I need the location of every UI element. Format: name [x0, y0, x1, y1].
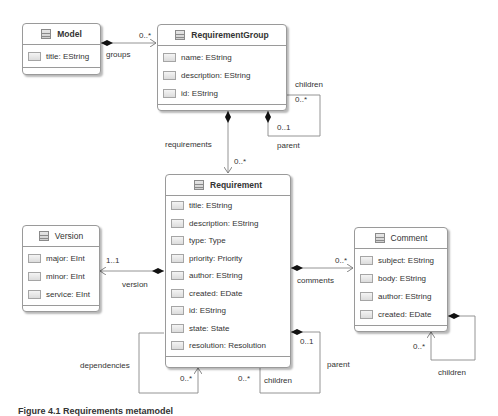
eattribute-icon	[360, 256, 373, 265]
multiplicity-req-parent: 0..1	[300, 337, 313, 346]
multiplicity-group-children: 0..*	[295, 95, 307, 104]
class-name: Comment	[391, 233, 428, 243]
eclass-icon	[375, 233, 385, 243]
class-requirement[interactable]: Requirement title: EString description: …	[165, 174, 291, 368]
attribute[interactable]: state: State	[166, 320, 290, 338]
eclass-icon	[175, 30, 185, 40]
multiplicity-group-parent: 0..1	[277, 123, 290, 132]
eclass-icon	[41, 29, 51, 39]
eattribute-icon	[171, 324, 184, 333]
attribute[interactable]: title: EString	[23, 47, 100, 65]
attribute[interactable]: resolution: Resolution	[166, 337, 290, 355]
class-requirement-group[interactable]: RequirementGroup name: EString descripti…	[157, 24, 287, 111]
attribute[interactable]: priority: Priority	[166, 250, 290, 268]
eattribute-icon	[171, 271, 184, 280]
role-label-requirements: requirements	[165, 140, 212, 149]
eattribute-icon	[360, 310, 373, 319]
role-label-group-parent: parent	[277, 141, 300, 150]
role-label-version: version	[122, 280, 148, 289]
attribute[interactable]: title: EString	[166, 197, 290, 215]
eattribute-icon	[171, 341, 184, 350]
eattribute-icon	[28, 254, 41, 263]
eclass-icon	[39, 231, 49, 241]
eattribute-icon	[171, 289, 184, 298]
class-comment[interactable]: Comment subject: EString body: EString a…	[354, 227, 448, 332]
multiplicity-groups: 0..*	[139, 31, 151, 40]
attribute[interactable]: major: EInt	[23, 249, 99, 267]
role-label-groups: groups	[106, 50, 130, 59]
role-label-req-children: children	[264, 376, 292, 385]
attribute[interactable]: author: EString	[166, 267, 290, 285]
multiplicity-comment-children: 0..*	[413, 342, 425, 351]
attribute[interactable]: created: EDate	[355, 305, 447, 323]
attribute[interactable]: author: EString	[355, 287, 447, 305]
eattribute-icon	[171, 236, 184, 245]
class-header: Model	[23, 24, 100, 45]
class-version[interactable]: Version major: EInt minor: EInt service:…	[22, 225, 100, 312]
class-model[interactable]: Model title: EString	[22, 23, 101, 75]
role-label-dependencies: dependencies	[80, 361, 130, 370]
role-label-req-parent: parent	[327, 360, 350, 369]
attribute[interactable]: subject: EString	[355, 251, 447, 269]
eattribute-icon	[28, 272, 41, 281]
attribute[interactable]: type: Type	[166, 232, 290, 250]
class-name: Model	[57, 29, 82, 39]
multiplicity-req-children: 0..*	[238, 374, 250, 383]
class-header: RequirementGroup	[158, 25, 286, 46]
eattribute-icon	[360, 292, 373, 301]
class-name: RequirementGroup	[191, 30, 268, 40]
attribute[interactable]: created: EDate	[166, 285, 290, 303]
eattribute-icon	[360, 274, 373, 283]
eattribute-icon	[171, 219, 184, 228]
class-name: Requirement	[210, 180, 262, 190]
multiplicity-requirements: 0..*	[234, 157, 246, 166]
attribute[interactable]: description: EString	[158, 66, 286, 84]
eattribute-icon	[163, 71, 176, 80]
role-label-group-children: children	[295, 80, 323, 89]
attribute[interactable]: body: EString	[355, 269, 447, 287]
class-header: Comment	[355, 228, 447, 249]
multiplicity-version: 1..1	[106, 256, 119, 265]
attribute[interactable]: minor: EInt	[23, 267, 99, 285]
eclass-icon	[194, 180, 204, 190]
attribute[interactable]: id: EString	[158, 84, 286, 102]
class-header: Version	[23, 226, 99, 247]
eattribute-icon	[163, 53, 176, 62]
attribute[interactable]: description: EString	[166, 215, 290, 233]
eattribute-icon	[163, 89, 176, 98]
attribute[interactable]: name: EString	[158, 48, 286, 66]
eattribute-icon	[171, 201, 184, 210]
eattribute-icon	[28, 52, 41, 61]
class-name: Version	[55, 231, 83, 241]
class-header: Requirement	[166, 175, 290, 196]
eattribute-icon	[171, 306, 184, 315]
attribute[interactable]: id: EString	[166, 302, 290, 320]
multiplicity-dependencies: 0..*	[180, 374, 192, 383]
eattribute-icon	[171, 254, 184, 263]
attribute[interactable]: service: EInt	[23, 285, 99, 303]
role-label-comments: comments	[297, 276, 334, 285]
eattribute-icon	[28, 290, 41, 299]
figure-caption: Figure 4.1 Requirements metamodel	[18, 406, 173, 416]
role-label-comment-children: children	[438, 368, 466, 377]
multiplicity-comments: 0..*	[335, 256, 347, 265]
